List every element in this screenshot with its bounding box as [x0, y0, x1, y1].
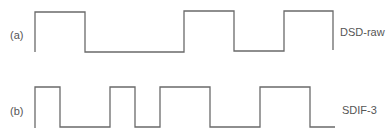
row-a-label: DSD-raw: [340, 26, 385, 38]
waveform-canvas: [0, 0, 391, 135]
row-a-tag: (a): [10, 29, 23, 41]
waveform-sdif-3: [35, 87, 335, 128]
waveform-dsd-raw: [35, 11, 333, 52]
row-b-tag: (b): [10, 105, 23, 117]
row-b-label: SDIF-3: [342, 104, 377, 116]
